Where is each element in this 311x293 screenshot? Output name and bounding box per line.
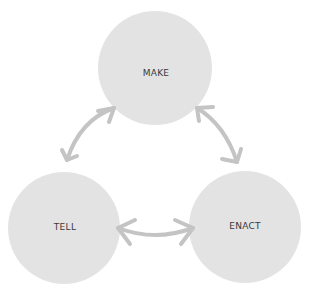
cycle-diagram: MAKE TELL ENACT xyxy=(0,0,311,293)
make-label: MAKE xyxy=(143,68,170,78)
make-enact-arrow xyxy=(197,108,237,162)
tell-enact-arrow xyxy=(118,228,193,235)
make-tell-arrow xyxy=(67,108,114,160)
tell-label: TELL xyxy=(53,222,76,232)
enact-label: ENACT xyxy=(229,221,261,231)
